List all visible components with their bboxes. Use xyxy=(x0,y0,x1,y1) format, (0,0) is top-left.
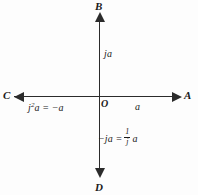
axis-endpoint-label-d: D xyxy=(95,181,103,193)
arrow-up-icon xyxy=(95,12,105,22)
annotation-positive-imaginary: ja xyxy=(104,48,112,59)
complex-plane-diagram: A B C D O ja a j2a = −a −ja = 1 j a xyxy=(0,0,198,195)
arrow-down-icon xyxy=(95,168,105,178)
fraction-numerator: 1 xyxy=(124,128,130,136)
horizontal-axis-line xyxy=(14,96,178,97)
annotation-negative-real: j2a = −a xyxy=(28,101,64,113)
negative-real-remainder: a = −a xyxy=(35,102,64,113)
arrow-left-icon xyxy=(14,92,24,102)
annotation-positive-real: a xyxy=(135,101,140,112)
fraction-denominator: j xyxy=(125,138,129,146)
vertical-axis-line xyxy=(99,17,100,175)
fraction-one-over-j: 1 j xyxy=(124,128,130,146)
axis-endpoint-label-c: C xyxy=(3,89,11,101)
axis-endpoint-label-b: B xyxy=(95,0,103,12)
fraction-trailing-symbol: a xyxy=(132,133,137,144)
axis-endpoint-label-a: A xyxy=(184,89,192,101)
arrow-right-icon xyxy=(172,92,182,102)
annotation-negative-imaginary: −ja = 1 j a xyxy=(98,129,138,147)
negative-imaginary-lead: −ja = xyxy=(98,133,122,144)
origin-label: O xyxy=(101,98,108,109)
